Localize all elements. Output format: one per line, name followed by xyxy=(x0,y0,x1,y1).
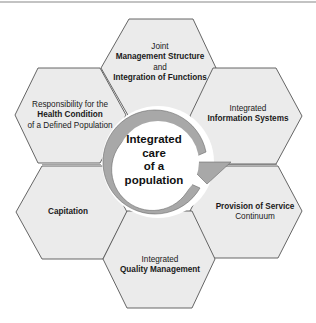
label-line: Integration of Functions xyxy=(113,73,207,83)
hexagon-upper-left-label: Responsibility for the Health Condition … xyxy=(27,100,112,131)
hexagon-lower-left-label: Capitation xyxy=(48,207,88,217)
label-line: Quality Management xyxy=(120,265,200,275)
label-line: Provision of Service xyxy=(216,202,295,212)
center-line: care xyxy=(125,147,184,161)
label-line: and xyxy=(113,63,207,73)
label-line: Integrated xyxy=(208,104,289,114)
label-line: Capitation xyxy=(48,207,88,217)
center-label: Integrated care of a population xyxy=(125,133,184,187)
label-line: Integrated xyxy=(120,255,200,265)
center-line: population xyxy=(125,174,184,188)
label-line: Health Condition xyxy=(27,110,112,120)
label-line: Responsibility for the xyxy=(27,100,112,110)
hexagon-bottom-label: Integrated Quality Management xyxy=(120,255,200,276)
integrated-care-diagram: Integrated care of a population Joint Ma… xyxy=(0,0,316,323)
label-line: Continuum xyxy=(216,212,295,222)
center-line: Integrated xyxy=(125,133,184,147)
hexagon-lower-right-label: Provision of Service Continuum xyxy=(216,202,295,223)
label-line: Management Structure xyxy=(113,52,207,62)
hexagon-top-label: Joint Management Structure and Integrati… xyxy=(113,42,207,83)
center-line: of a xyxy=(125,160,184,174)
label-line: of a Defined Population xyxy=(27,121,112,131)
label-line: Information Systems xyxy=(208,114,289,124)
hexagon-upper-right-label: Integrated Information Systems xyxy=(208,104,289,125)
label-line: Joint xyxy=(113,42,207,52)
